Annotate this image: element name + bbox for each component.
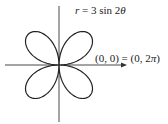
equation-rest: = 3 sin 2: [79, 4, 120, 16]
point-label-right: ): [156, 52, 160, 64]
point-label-left: (0, 0) = (0, 2: [95, 52, 151, 64]
equation-theta: θ: [120, 4, 125, 16]
origin-point-label: (0, 0) = (0, 2π): [95, 53, 160, 64]
equation-label: r = 3 sin 2θ: [75, 5, 126, 16]
